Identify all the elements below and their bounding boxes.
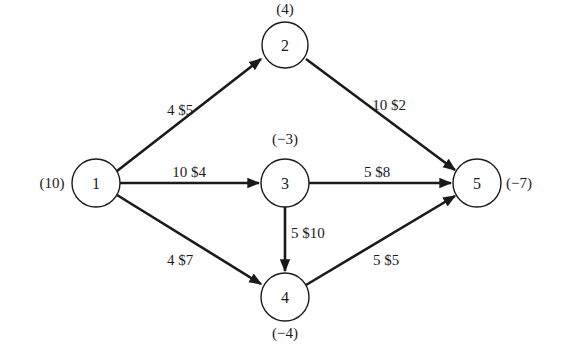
node-5: 5 [453,159,501,207]
supply-node-3: (−3) [272,131,298,148]
supply-node-5: (−7) [506,175,532,192]
edge-2-5 [306,59,455,170]
supply-node-2: (4) [276,1,294,18]
edge-1-3-label: 10 $4 [172,164,206,180]
node-1-label: 1 [92,175,100,192]
node-5-label: 5 [473,175,481,192]
node-1: 1 [72,159,120,207]
node-3-label: 3 [281,175,289,192]
node-4-label: 4 [281,289,289,306]
edge-4-5-label: 5 $5 [373,252,399,268]
node-4: 4 [261,273,309,321]
node-3: 3 [261,159,309,207]
edge-1-4-label: 4 $7 [167,252,194,268]
edge-3-4-label: 5 $10 [291,225,325,241]
edge-2-5-label: 10 $2 [372,97,406,113]
network-diagram: 1 2 3 4 5 (10) (4) (−3) (−4) (−7) 4 $5 1… [0,0,565,361]
edge-4-5 [306,196,455,285]
edge-1-2-label: 4 $5 [167,102,193,118]
node-2: 2 [262,22,308,68]
edge-1-4 [117,195,261,284]
edge-3-5-label: 5 $8 [364,164,390,180]
supply-node-1: (10) [40,175,65,192]
node-2-label: 2 [281,37,289,54]
supply-node-4: (−4) [272,325,298,342]
